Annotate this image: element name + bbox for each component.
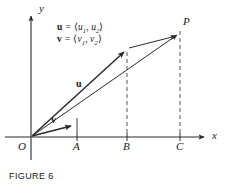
y-axis-label: y [39,3,44,14]
definition-v-name: v [57,34,62,44]
definition-u: u=⟨u1, u2⟩ [57,23,103,34]
definition-u-close: ⟩ [99,22,103,32]
vector-v-translated [129,36,176,48]
definition-v: v=⟨v1, v2⟩ [57,35,102,46]
point-label-c: C [176,141,183,152]
point-label-p: P [183,16,190,27]
definition-u-equals: = [65,22,70,32]
vector-label-u: u [76,79,82,89]
point-label-b: B [123,141,130,152]
vector-label-v: v [51,115,56,125]
point-label-origin: O [18,141,26,152]
vector-diagram [0,0,226,191]
definition-u-name: u [57,22,62,32]
point-label-a: A [73,141,80,152]
vector-u-arrow [32,52,124,136]
x-axis-label: x [212,130,217,141]
figure-container: y x O A B C P u v u=⟨u1, u2⟩ v=⟨v1, v2⟩ … [0,0,226,191]
definition-v-close: ⟩ [98,34,102,44]
definition-v-equals: = [65,34,70,44]
figure-caption: FIGURE 6 [9,171,54,181]
